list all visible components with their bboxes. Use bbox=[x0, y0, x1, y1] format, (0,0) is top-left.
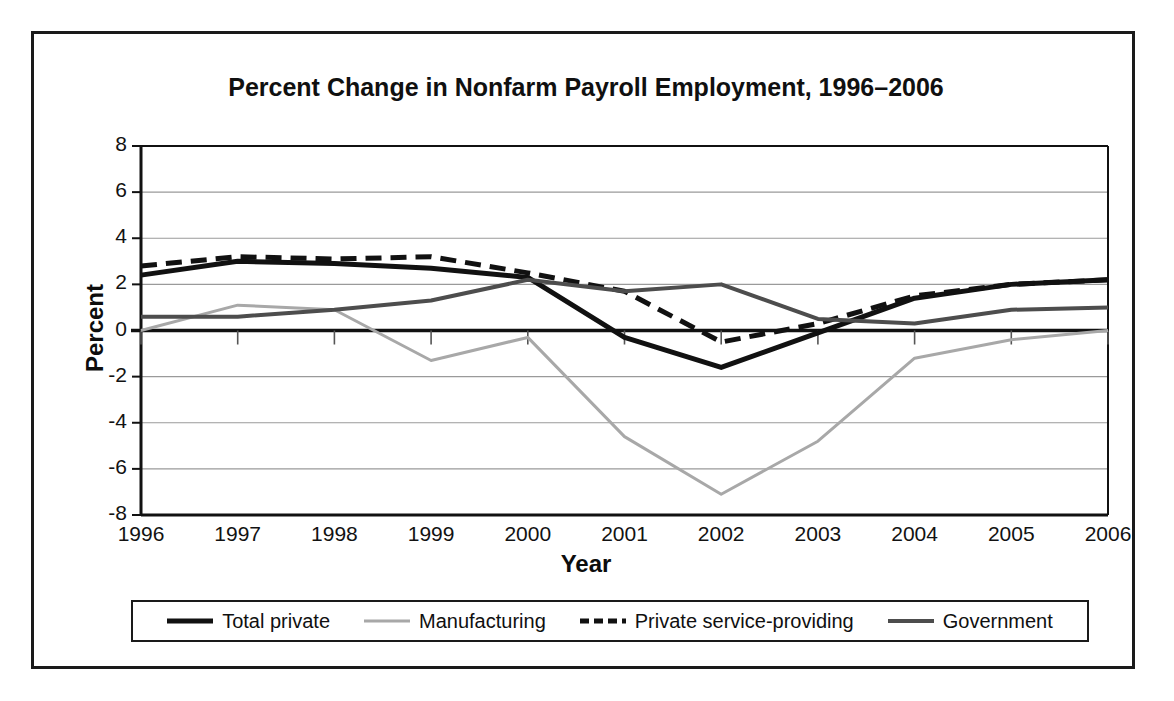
x-tick-label: 1996 bbox=[96, 522, 186, 546]
x-tick-label: 2002 bbox=[676, 522, 766, 546]
x-tick-label: 1999 bbox=[386, 522, 476, 546]
axis-lines bbox=[131, 146, 1108, 515]
figure-frame: Percent Change in Nonfarm Payroll Employ… bbox=[31, 31, 1135, 669]
series-line-government bbox=[141, 280, 1108, 324]
y-tick-label: 8 bbox=[81, 132, 127, 156]
legend-entry: Manufacturing bbox=[347, 610, 563, 633]
legend-swatch-icon bbox=[580, 614, 626, 628]
chart-legend: Total privateManufacturingPrivate servic… bbox=[131, 600, 1089, 642]
legend-entry: Private service-providing bbox=[563, 610, 871, 633]
figure-root: Percent Change in Nonfarm Payroll Employ… bbox=[0, 0, 1174, 701]
x-tick-label: 2003 bbox=[773, 522, 863, 546]
x-tick-label: 2005 bbox=[966, 522, 1056, 546]
y-tick-label: 2 bbox=[81, 270, 127, 294]
legend-swatch-icon bbox=[167, 614, 213, 628]
x-tick-label: 1997 bbox=[193, 522, 283, 546]
y-tick-label: -6 bbox=[81, 455, 127, 479]
x-axis-title: Year bbox=[34, 550, 1138, 578]
legend-swatch-icon bbox=[364, 614, 410, 628]
legend-label: Manufacturing bbox=[419, 610, 546, 633]
y-tick-label: 6 bbox=[81, 178, 127, 202]
x-tick-label: 2001 bbox=[580, 522, 670, 546]
legend-swatch-icon bbox=[888, 614, 934, 628]
series-lines bbox=[141, 257, 1108, 495]
legend-entry: Total private bbox=[150, 610, 347, 633]
legend-label: Private service-providing bbox=[635, 610, 854, 633]
y-tick-label: -4 bbox=[81, 409, 127, 433]
y-tick-label: 0 bbox=[81, 317, 127, 341]
x-tick-label: 2004 bbox=[870, 522, 960, 546]
legend-entry: Government bbox=[871, 610, 1070, 633]
x-tick-label: 1998 bbox=[289, 522, 379, 546]
legend-label: Government bbox=[943, 610, 1053, 633]
x-tick-label: 2000 bbox=[483, 522, 573, 546]
y-tick-label: 4 bbox=[81, 224, 127, 248]
y-tick-label: -2 bbox=[81, 363, 127, 387]
legend-label: Total private bbox=[222, 610, 330, 633]
x-tick-label: 2006 bbox=[1063, 522, 1153, 546]
